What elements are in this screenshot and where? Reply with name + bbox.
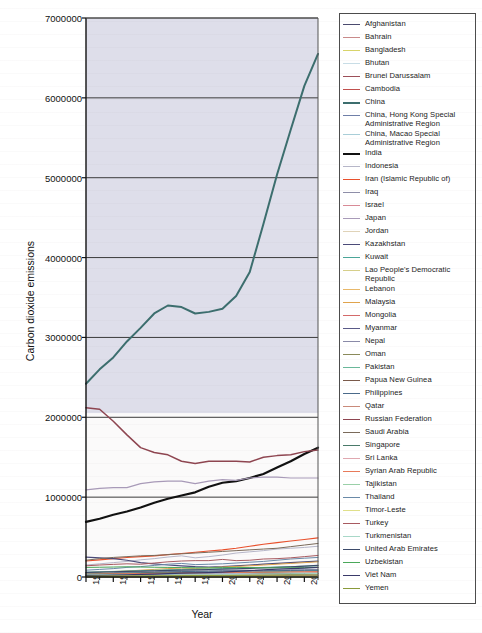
legend-item-label: Syrian Arab Republic — [365, 466, 437, 475]
legend-color-swatch-icon — [343, 523, 360, 524]
legend-item[interactable]: China, Macao Special Administrative Regi… — [343, 129, 475, 147]
legend-item-label: Bangladesh — [365, 45, 406, 54]
legend-item[interactable]: Saudi Arabia — [343, 427, 475, 436]
legend-item-label: Bhutan — [365, 58, 389, 67]
legend-item-label: Viet Nam — [365, 570, 397, 579]
legend-item[interactable]: Bangladesh — [343, 45, 475, 54]
legend-item-label: Japan — [365, 213, 386, 222]
legend-item[interactable]: Syrian Arab Republic — [343, 466, 475, 475]
legend-item[interactable]: Russian Federation — [343, 414, 475, 423]
legend-item[interactable]: Timor-Leste — [343, 505, 475, 514]
legend-item[interactable]: Turkey — [343, 518, 475, 527]
legend-item-label: Cambodia — [365, 84, 400, 93]
legend-item-label: Russian Federation — [365, 414, 432, 423]
legend-color-swatch-icon — [343, 575, 360, 576]
legend-color-swatch-icon — [343, 134, 360, 135]
legend-color-swatch-icon — [343, 588, 360, 589]
legend-item[interactable]: Sri Lanka — [343, 453, 475, 462]
legend-item[interactable]: India — [343, 148, 475, 157]
legend-color-swatch-icon — [343, 471, 360, 472]
legend-item-label: Afghanistan — [365, 19, 406, 28]
legend-color-swatch-icon — [343, 354, 360, 355]
legend-color-swatch-icon — [343, 341, 360, 342]
legend-item[interactable]: Myanmar — [343, 323, 475, 332]
legend-color-swatch-icon — [343, 115, 360, 116]
legend-color-swatch-icon — [343, 393, 360, 394]
legend-color-swatch-icon — [343, 432, 360, 433]
legend-item[interactable]: Malaysia — [343, 297, 475, 306]
legend-item-label: Thailand — [365, 492, 395, 501]
legend-item-label: Papua New Guinea — [365, 375, 432, 384]
legend-item[interactable]: Lao People's Democratic Republic — [343, 265, 475, 283]
legend-item[interactable]: Iran (Islamic Republic of) — [343, 174, 475, 183]
legend-item-label: Singapore — [365, 440, 400, 449]
legend-color-swatch-icon — [343, 166, 360, 167]
legend-item[interactable]: Iraq — [343, 187, 475, 196]
legend-item-label: Bahrain — [365, 32, 392, 41]
legend-item-label: Indonesia — [365, 161, 398, 170]
legend-item[interactable]: Jordan — [343, 226, 475, 235]
legend-item-label: Malaysia — [365, 297, 395, 306]
legend-item[interactable]: China, Hong Kong Special Administrative … — [343, 110, 475, 128]
legend-item[interactable]: Viet Nam — [343, 570, 475, 579]
legend-item[interactable]: Kuwait — [343, 252, 475, 261]
legend-item-label: Philippines — [365, 388, 402, 397]
legend-item[interactable]: Brunei Darussalam — [343, 71, 475, 80]
legend-item[interactable]: United Arab Emirates — [343, 544, 475, 553]
legend-item-label: China — [365, 97, 385, 106]
legend-item[interactable]: Bhutan — [343, 58, 475, 67]
legend-color-swatch-icon — [343, 24, 360, 25]
legend-item[interactable]: Kazakhstan — [343, 239, 475, 248]
legend-item[interactable]: Pakistan — [343, 362, 475, 371]
legend-item[interactable]: Uzbekistan — [343, 557, 475, 566]
legend-item[interactable]: Cambodia — [343, 84, 475, 93]
legend-item[interactable]: Papua New Guinea — [343, 375, 475, 384]
legend-item-label: Saudi Arabia — [365, 427, 409, 436]
legend-color-swatch-icon — [343, 205, 360, 206]
legend-item[interactable]: Mongolia — [343, 310, 475, 319]
legend-item-label: Nepal — [365, 336, 385, 345]
legend-color-swatch-icon — [343, 257, 360, 258]
legend-item[interactable]: Indonesia — [343, 161, 475, 170]
legend-color-swatch-icon — [343, 497, 360, 498]
legend-color-swatch-icon — [343, 406, 360, 407]
legend-item[interactable]: Lebanon — [343, 284, 475, 293]
legend-color-swatch-icon — [343, 244, 360, 245]
legend-item-label: Kazakhstan — [365, 239, 405, 248]
legend-item[interactable]: Israel — [343, 200, 475, 209]
legend-item-label: Kuwait — [365, 252, 388, 261]
legend-color-swatch-icon — [343, 380, 360, 381]
series-legend: AfghanistanBahrainBangladeshBhutanBrunei… — [339, 13, 476, 604]
legend-color-swatch-icon — [343, 510, 360, 511]
legend-item-label: Uzbekistan — [365, 557, 403, 566]
legend-color-swatch-icon — [343, 536, 360, 537]
legend-item[interactable]: Oman — [343, 349, 475, 358]
legend-item[interactable]: Nepal — [343, 336, 475, 345]
legend-color-swatch-icon — [343, 458, 360, 459]
legend-color-swatch-icon — [343, 102, 360, 104]
legend-item[interactable]: Thailand — [343, 492, 475, 501]
legend-item[interactable]: Tajikistan — [343, 479, 475, 488]
legend-item[interactable]: Singapore — [343, 440, 475, 449]
legend-color-swatch-icon — [343, 153, 360, 155]
legend-color-swatch-icon — [343, 315, 360, 316]
legend-color-swatch-icon — [343, 270, 360, 271]
legend-color-swatch-icon — [343, 63, 360, 64]
legend-item-label: Lebanon — [365, 284, 395, 293]
legend-item-label: United Arab Emirates — [365, 544, 438, 553]
legend-item[interactable]: Bahrain — [343, 32, 475, 41]
legend-color-swatch-icon — [343, 549, 360, 550]
legend-color-swatch-icon — [343, 367, 360, 368]
legend-color-swatch-icon — [343, 231, 360, 232]
chart-figure: Carbon dioxide emissions Year 0100000020… — [0, 0, 482, 633]
legend-item[interactable]: Yemen — [343, 583, 475, 592]
legend-item[interactable]: Qatar — [343, 401, 475, 410]
legend-item[interactable]: Philippines — [343, 388, 475, 397]
legend-color-swatch-icon — [343, 89, 360, 90]
legend-item[interactable]: China — [343, 97, 475, 106]
legend-item[interactable]: Afghanistan — [343, 19, 475, 28]
legend-color-swatch-icon — [343, 50, 360, 51]
legend-item[interactable]: Japan — [343, 213, 475, 222]
legend-item[interactable]: Turkmenistan — [343, 531, 475, 540]
legend-item-label: Lao People's Democratic Republic — [365, 265, 450, 283]
